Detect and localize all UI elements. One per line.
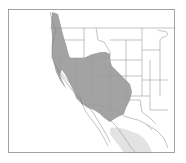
range-map	[0, 0, 186, 163]
map-canvas	[0, 0, 186, 163]
